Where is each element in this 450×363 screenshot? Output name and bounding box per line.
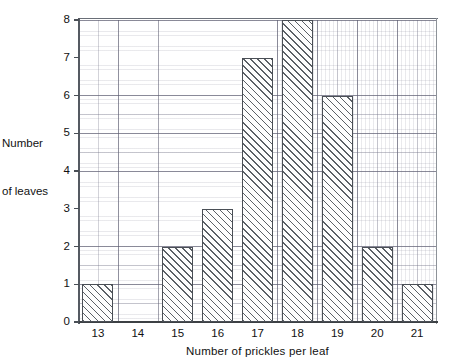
x-tick-label-17: 17	[238, 327, 278, 339]
y-tick-mark-5	[74, 133, 79, 134]
y-tick-mark-0	[74, 321, 79, 322]
y-tick-label-8: 8	[48, 14, 70, 25]
x-tick-label-14: 14	[118, 327, 158, 339]
bar-17	[242, 58, 273, 322]
y-axis-title-line-2: of leaves	[2, 183, 70, 199]
y-tick-mark-7	[74, 57, 79, 58]
y-tick-mark-8	[74, 19, 79, 20]
x-tick-label-13: 13	[78, 327, 118, 339]
y-tick-label-3: 3	[48, 203, 70, 214]
x-tick-label-16: 16	[198, 327, 238, 339]
bar-series	[78, 20, 437, 322]
x-tick-label-19: 19	[317, 327, 357, 339]
bar-16	[202, 209, 233, 322]
y-tick-mark-6	[74, 95, 79, 96]
x-tick-label-18: 18	[277, 327, 317, 339]
x-tick-label-21: 21	[397, 327, 437, 339]
y-tick-label-4: 4	[48, 165, 70, 176]
bar-19	[322, 96, 353, 323]
y-tick-mark-1	[74, 284, 79, 285]
y-tick-mark-2	[74, 246, 79, 247]
bar-21	[402, 284, 433, 322]
y-tick-label-6: 6	[48, 90, 70, 101]
bar-13	[82, 284, 113, 322]
y-tick-label-1: 1	[48, 278, 70, 289]
y-tick-label-5: 5	[48, 127, 70, 138]
y-tick-mark-3	[74, 208, 79, 209]
x-tick-label-15: 15	[158, 327, 198, 339]
bar-15	[162, 247, 193, 323]
y-tick-mark-4	[74, 170, 79, 171]
x-axis-title: Number of prickles per leaf	[78, 345, 437, 357]
y-tick-label-2: 2	[48, 241, 70, 252]
y-tick-label-0: 0	[48, 316, 70, 327]
histogram-chart: Number of leaves 012345678 1314151617181…	[0, 0, 450, 363]
bar-20	[362, 247, 393, 323]
x-tick-label-20: 20	[357, 327, 397, 339]
bar-18	[282, 20, 313, 322]
y-tick-label-7: 7	[48, 52, 70, 63]
